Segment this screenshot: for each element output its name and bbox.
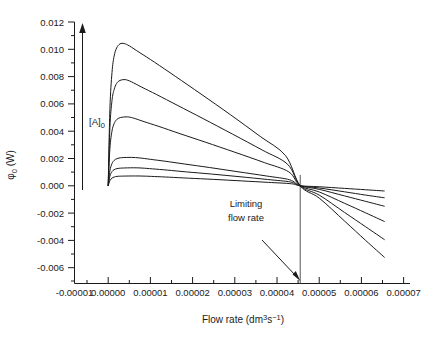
arrow-head-up [79,23,86,33]
x-tick-label: -0.00001 [56,287,94,298]
x-tick-label: 0.00007 [386,287,420,298]
y-axis-title: φ0 (W) [5,150,19,180]
phi0-vs-flow-rate-chart: 0.012 0.010 0.008 0.006 0.004 0.002 0.00… [0,0,439,341]
curve-1 [108,43,384,257]
x-tick-label: 0.00001 [133,287,167,298]
y-tick-label: 0.010 [40,44,64,55]
limiting-flow-rate-line2: flow rate [228,212,264,223]
x-tick-label: 0.00003 [218,287,252,298]
y-axis: 0.012 0.010 0.008 0.006 0.004 0.002 0.00… [5,17,75,284]
arrow-head-down-right [293,271,301,281]
concentration-label: [A]0 [89,116,105,130]
x-tick-label: 0.00000 [91,287,125,298]
x-axis-title-sup-minus1: −1 [272,313,281,322]
x-major-ticks [75,277,404,284]
concentration-label-subscript: 0 [101,121,105,130]
y-tick-label: 0.004 [40,126,64,137]
x-tick-label: 0.00005 [302,287,336,298]
x-axis-title-close: ) [281,314,284,325]
concentration-arrow: [A]0 [79,23,105,190]
limiting-flow-rate-annotation: Limiting flow rate [228,198,300,281]
curve-6 [108,176,384,191]
x-axis-title: Flow rate (dm3s−1) [202,313,284,326]
y-axis-unit: (W) [5,150,16,169]
y-tick-label: -0.004 [37,235,64,246]
y-tick-label: -0.002 [37,208,64,219]
data-curves [108,43,384,257]
limiting-flow-rate-line1: Limiting [230,198,263,209]
y-tick-label: 0.006 [40,98,64,109]
y-tick-label: 0.002 [40,153,64,164]
concentration-label-text: [A] [89,116,101,127]
y-tick-label: -0.006 [37,262,64,273]
limiting-flow-rate-arrow-shaft [262,240,296,276]
svg-text:φ0 (W): φ0 (W) [5,150,19,180]
x-tick-label: 0.00006 [344,287,378,298]
x-axis-title-text: Flow rate (dm [202,314,263,325]
y-tick-label: 0.012 [40,17,64,28]
chart-figure: 0.012 0.010 0.008 0.006 0.004 0.002 0.00… [0,0,439,341]
x-tick-labels: -0.00001 0.00000 0.00001 0.00002 0.00003… [56,287,421,298]
y-tick-label: 0.008 [40,71,64,82]
x-axis: -0.00001 0.00000 0.00001 0.00002 0.00003… [56,277,421,325]
x-tick-label: 0.00004 [260,287,294,298]
x-tick-label: 0.00002 [175,287,209,298]
y-tick-label: 0.000 [40,180,64,191]
curve-5 [108,168,384,198]
y-tick-labels: 0.012 0.010 0.008 0.006 0.004 0.002 0.00… [37,17,64,274]
